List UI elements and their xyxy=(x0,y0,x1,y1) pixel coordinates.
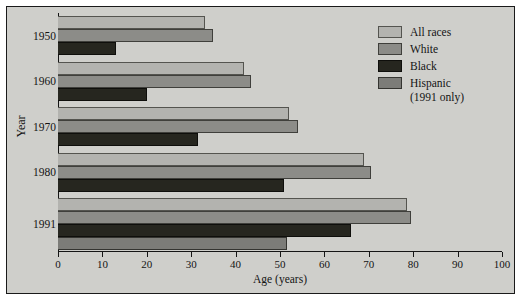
x-axis-tick xyxy=(502,252,503,257)
legend-sublabel: (1991 only) xyxy=(410,90,464,104)
bar xyxy=(58,75,251,88)
x-axis-tick xyxy=(236,252,237,257)
legend-swatch-icon xyxy=(378,77,402,89)
x-axis-tick-label: 90 xyxy=(443,258,473,271)
x-axis-tick xyxy=(324,252,325,257)
bar xyxy=(58,237,287,250)
x-axis-tick-label: 10 xyxy=(87,258,117,271)
legend-item: Hispanic(1991 only) xyxy=(378,76,508,105)
bar xyxy=(58,133,198,146)
x-axis-tick-label: 20 xyxy=(132,258,162,271)
x-axis-tick xyxy=(369,252,370,257)
bar xyxy=(58,224,351,237)
x-axis-tick xyxy=(58,252,59,257)
legend-item: White xyxy=(378,42,508,57)
legend-label: Black xyxy=(410,59,437,73)
bar xyxy=(58,166,371,179)
legend-item: Black xyxy=(378,59,508,74)
y-axis-tick-label: 1991 xyxy=(12,218,56,230)
x-axis-title: Age (years) xyxy=(58,273,502,285)
bar xyxy=(58,153,364,166)
x-axis-tick-label: 60 xyxy=(309,258,339,271)
bar xyxy=(58,88,147,101)
x-axis-tick-label: 70 xyxy=(354,258,384,271)
bar xyxy=(58,107,289,120)
legend-swatch-icon xyxy=(378,26,402,38)
x-axis-tick-label: 30 xyxy=(176,258,206,271)
x-axis-tick-label: 50 xyxy=(265,258,295,271)
x-axis-tick xyxy=(458,252,459,257)
chart-figure: 0102030405060708090100 19501960197019801… xyxy=(6,6,515,294)
x-axis-tick xyxy=(147,252,148,257)
bar xyxy=(58,16,205,29)
legend-label: White xyxy=(410,42,438,56)
y-axis-title: Year xyxy=(14,37,29,217)
x-axis-tick-label: 40 xyxy=(221,258,251,271)
x-axis-tick xyxy=(280,252,281,257)
x-axis-tick-label: 80 xyxy=(398,258,428,271)
bar xyxy=(58,42,116,55)
chart-legend: All racesWhiteBlackHispanic(1991 only) xyxy=(378,25,508,107)
legend-label: All races xyxy=(410,25,451,39)
legend-swatch-icon xyxy=(378,43,402,55)
bar xyxy=(58,120,298,133)
bar xyxy=(58,198,407,211)
x-axis-tick xyxy=(413,252,414,257)
legend-item: All races xyxy=(378,25,508,40)
bar xyxy=(58,62,244,75)
x-axis-tick-label: 100 xyxy=(487,258,517,271)
x-axis-tick xyxy=(102,252,103,257)
bar xyxy=(58,29,213,42)
bar xyxy=(58,211,411,224)
bar xyxy=(58,179,284,192)
legend-label: Hispanic xyxy=(410,76,451,90)
legend-swatch-icon xyxy=(378,60,402,72)
x-axis-tick xyxy=(191,252,192,257)
